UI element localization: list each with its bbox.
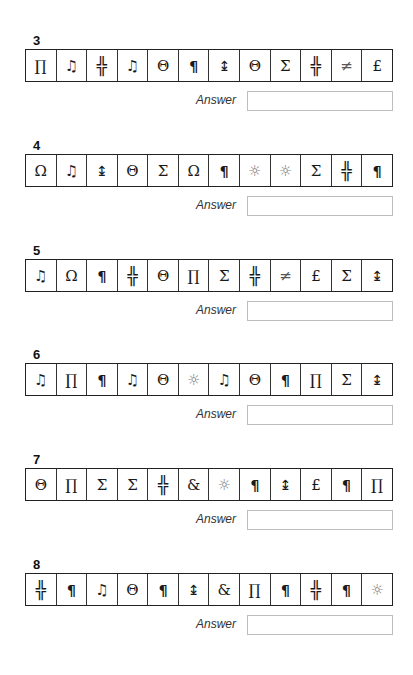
sigma-symbol-icon: Σ (332, 364, 363, 395)
pilcrow-icon: ¶ (148, 574, 179, 605)
sigma-symbol-icon: Σ (301, 155, 332, 186)
pilcrow-icon: ¶ (332, 469, 363, 500)
symbol-sequence: ∏♫╬♫Θ¶↨ΘΣ╬≠£ (25, 49, 393, 82)
omega-symbol-icon: Ω (57, 260, 88, 291)
music-note-icon: ♫ (57, 155, 88, 186)
music-note-icon: ♫ (87, 574, 118, 605)
theta-symbol-icon: Θ (26, 469, 57, 500)
up-down-arrow-icon: ↨ (362, 364, 392, 395)
question-number: 3 (33, 33, 40, 48)
sun-icon: ☼ (240, 155, 271, 186)
theta-symbol-icon: Θ (240, 50, 271, 81)
up-down-arrow-icon: ↨ (271, 469, 302, 500)
pound-sign-icon: £ (301, 260, 332, 291)
pound-sign-icon: £ (301, 469, 332, 500)
theta-symbol-icon: Θ (148, 364, 179, 395)
theta-symbol-icon: Θ (148, 260, 179, 291)
ampersand-icon: & (209, 574, 240, 605)
not-equal-icon: ≠ (271, 260, 302, 291)
question-number: 8 (33, 557, 40, 572)
pilcrow-icon: ¶ (240, 469, 271, 500)
double-cross-icon: ╬ (240, 260, 271, 291)
answer-label: Answer (196, 617, 236, 631)
question-number: 6 (33, 347, 40, 362)
question-number: 5 (33, 243, 40, 258)
answer-label: Answer (196, 303, 236, 317)
double-cross-icon: ╬ (301, 50, 332, 81)
not-equal-icon: ≠ (332, 50, 363, 81)
answer-label: Answer (196, 512, 236, 526)
pilcrow-icon: ¶ (179, 50, 210, 81)
up-down-arrow-icon: ↨ (179, 574, 210, 605)
pi-symbol-icon: ∏ (57, 364, 88, 395)
theta-symbol-icon: Θ (148, 50, 179, 81)
answer-input[interactable] (247, 196, 393, 216)
pilcrow-icon: ¶ (57, 574, 88, 605)
ampersand-icon: & (179, 469, 210, 500)
double-cross-icon: ╬ (87, 50, 118, 81)
sun-icon: ☼ (209, 469, 240, 500)
symbol-sequence: Θ∏ΣΣ╬&☼¶↨£¶∏ (25, 468, 393, 501)
double-cross-icon: ╬ (332, 155, 363, 186)
pilcrow-icon: ¶ (271, 574, 302, 605)
pilcrow-icon: ¶ (87, 364, 118, 395)
pilcrow-icon: ¶ (362, 155, 392, 186)
symbol-sequence: ♫∏¶♫Θ☼♫Θ¶∏Σ↨ (25, 363, 393, 396)
music-note-icon: ♫ (118, 50, 149, 81)
answer-input[interactable] (247, 615, 393, 635)
music-note-icon: ♫ (118, 364, 149, 395)
music-note-icon: ♫ (57, 50, 88, 81)
pi-symbol-icon: ∏ (179, 260, 210, 291)
symbol-sequence: ╬¶♫Θ¶↨&∏¶╬¶☼ (25, 573, 393, 606)
double-cross-icon: ╬ (301, 574, 332, 605)
question-block-6: 6 ♫∏¶♫Θ☼♫Θ¶∏Σ↨ Answer (0, 347, 413, 447)
sigma-symbol-icon: Σ (332, 260, 363, 291)
sun-icon: ☼ (179, 364, 210, 395)
sigma-symbol-icon: Σ (271, 50, 302, 81)
answer-input[interactable] (247, 91, 393, 111)
question-block-5: 5 ♫Ω¶╬Θ∏Σ╬≠£Σ↨ Answer (0, 243, 413, 343)
up-down-arrow-icon: ↨ (362, 260, 392, 291)
question-number: 4 (33, 138, 40, 153)
pilcrow-icon: ¶ (271, 364, 302, 395)
answer-input[interactable] (247, 301, 393, 321)
sun-icon: ☼ (271, 155, 302, 186)
question-block-8: 8 ╬¶♫Θ¶↨&∏¶╬¶☼ Answer (0, 557, 413, 657)
symbol-sequence: Ω♫↨ΘΣΩ¶☼☼Σ╬¶ (25, 154, 393, 187)
pi-symbol-icon: ∏ (26, 50, 57, 81)
question-block-7: 7 Θ∏ΣΣ╬&☼¶↨£¶∏ Answer (0, 452, 413, 552)
pi-symbol-icon: ∏ (362, 469, 392, 500)
up-down-arrow-icon: ↨ (209, 50, 240, 81)
answer-input[interactable] (247, 510, 393, 530)
answer-label: Answer (196, 407, 236, 421)
sun-icon: ☼ (362, 574, 392, 605)
question-number: 7 (33, 452, 40, 467)
omega-symbol-icon: Ω (26, 155, 57, 186)
pound-sign-icon: £ (362, 50, 392, 81)
sigma-symbol-icon: Σ (87, 469, 118, 500)
pi-symbol-icon: ∏ (240, 574, 271, 605)
pi-symbol-icon: ∏ (57, 469, 88, 500)
theta-symbol-icon: Θ (118, 155, 149, 186)
pilcrow-icon: ¶ (87, 260, 118, 291)
sigma-symbol-icon: Σ (148, 155, 179, 186)
double-cross-icon: ╬ (118, 260, 149, 291)
up-down-arrow-icon: ↨ (87, 155, 118, 186)
double-cross-icon: ╬ (148, 469, 179, 500)
music-note-icon: ♫ (26, 364, 57, 395)
answer-label: Answer (196, 198, 236, 212)
omega-symbol-icon: Ω (179, 155, 210, 186)
sigma-symbol-icon: Σ (118, 469, 149, 500)
answer-input[interactable] (247, 405, 393, 425)
music-note-icon: ♫ (26, 260, 57, 291)
sigma-symbol-icon: Σ (209, 260, 240, 291)
question-block-3: 3 ∏♫╬♫Θ¶↨ΘΣ╬≠£ Answer (0, 33, 413, 133)
pilcrow-icon: ¶ (209, 155, 240, 186)
theta-symbol-icon: Θ (240, 364, 271, 395)
pi-symbol-icon: ∏ (301, 364, 332, 395)
double-cross-icon: ╬ (26, 574, 57, 605)
theta-symbol-icon: Θ (118, 574, 149, 605)
question-block-4: 4 Ω♫↨ΘΣΩ¶☼☼Σ╬¶ Answer (0, 138, 413, 238)
music-note-icon: ♫ (209, 364, 240, 395)
answer-label: Answer (196, 93, 236, 107)
